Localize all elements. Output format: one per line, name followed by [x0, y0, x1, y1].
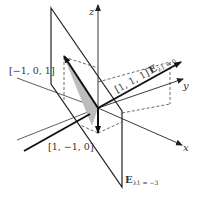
vector-m1-0-1: [64, 56, 98, 108]
vector-label-m1-0-1: [−1, 0, 1]: [9, 65, 55, 76]
z-axis-label: z: [88, 6, 95, 17]
eigenspace-label-m3: E λ1 = −3: [125, 174, 158, 186]
y-axis-label: y: [182, 80, 189, 91]
vector-label-1-m1-0: [1, −1, 0]: [48, 141, 94, 152]
x-axis: [98, 108, 182, 145]
shaded-region: [64, 57, 98, 126]
svg-text:λ1 = −3: λ1 = −3: [133, 179, 158, 186]
svg-text:E: E: [125, 174, 133, 185]
diagram-canvas: z y x [−1, 0, 1] [1, 1, 1] [1, −1, 0] E …: [0, 0, 199, 199]
eigenspace-diagram: z y x [−1, 0, 1] [1, 1, 1] [1, −1, 0] E …: [0, 0, 199, 199]
vector-1-1-1: [98, 62, 181, 108]
x-axis-label: x: [183, 142, 189, 153]
